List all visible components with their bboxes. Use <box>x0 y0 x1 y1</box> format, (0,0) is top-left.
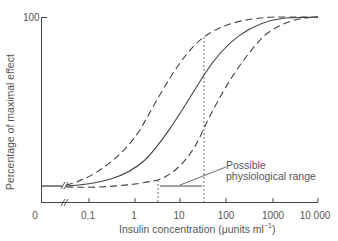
physiological-range-annotation: Possible physiological range <box>226 160 316 182</box>
x-ticks <box>89 198 273 202</box>
annotation-line-2: physiological range <box>226 171 316 182</box>
x-tick-1: 1 <box>131 211 137 221</box>
y-axis <box>42 18 48 203</box>
dose-response-chart <box>0 0 338 241</box>
x-tick-100: 100 <box>218 211 235 221</box>
y-axis-label: Percentage of maximal effect <box>4 54 16 190</box>
x-tick-10000: 10 000 <box>300 211 331 221</box>
y-tick-100: 100 <box>23 13 40 23</box>
annotation-leader <box>180 167 226 185</box>
x-tick-0: 0 <box>32 211 38 221</box>
x-tick-10: 10 <box>173 211 184 221</box>
x-tick-0.1: 0.1 <box>81 211 95 221</box>
x-tick-1000: 1000 <box>262 211 284 221</box>
x-axis-label: Insulin concentration (μunits ml−1) <box>119 222 275 235</box>
